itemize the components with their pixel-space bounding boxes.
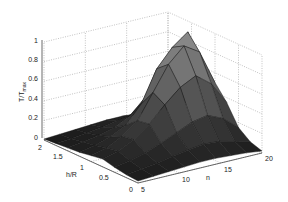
y-tick: 20 bbox=[265, 155, 273, 162]
z-axis-ticks: 0 0.2 0.4 0.6 0.8 1 bbox=[28, 37, 38, 141]
x-tick: 1 bbox=[80, 164, 84, 171]
z-tick: 0.8 bbox=[28, 56, 38, 63]
z-axis-label: T/Tmax bbox=[18, 82, 27, 102]
x-tick: 2 bbox=[38, 144, 42, 151]
z-label-sub: max bbox=[21, 82, 27, 92]
z-tick: 0 bbox=[34, 134, 38, 141]
y-axis-label: n bbox=[206, 174, 210, 181]
x-axis-label: h/R bbox=[66, 171, 77, 178]
z-tick: 0.4 bbox=[28, 95, 38, 102]
svg-text:T/Tmax: T/Tmax bbox=[18, 82, 27, 102]
y-tick: 5 bbox=[141, 186, 145, 193]
z-tick: 1 bbox=[34, 37, 38, 44]
surface-mesh bbox=[44, 32, 262, 181]
x-tick: 0 bbox=[129, 186, 133, 193]
x-tick: 1.5 bbox=[53, 153, 63, 160]
y-tick: 10 bbox=[182, 176, 190, 183]
x-tick: 0.5 bbox=[99, 174, 109, 181]
z-tick: 0.6 bbox=[28, 75, 38, 82]
z-tick: 0.2 bbox=[28, 114, 38, 121]
y-tick: 15 bbox=[224, 166, 232, 173]
surface-plot: 0 0.2 0.4 0.6 0.8 1 T/Tmax 2 1.5 1 0.5 0… bbox=[0, 0, 288, 202]
